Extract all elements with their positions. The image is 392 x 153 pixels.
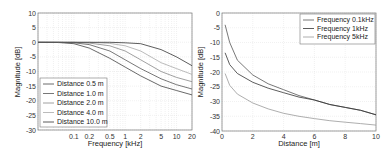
distance-attenuation-chart: 0-5-10-15-20-25-30-35-40 0246810 Distanc… (196, 10, 380, 149)
right-y-tick-labels: 0-5-10-15-20-25-30-35-40 (210, 10, 220, 135)
y-tick-label: -30 (210, 98, 220, 105)
y-tick-label: -10 (210, 39, 220, 46)
y-tick-label: -25 (210, 83, 220, 90)
x-tick-label: 5 (159, 133, 163, 140)
y-tick-label: 10 (28, 10, 36, 17)
y-tick-label: -25 (26, 112, 36, 119)
left-x-axis-label: Frequency [kHz] (88, 139, 143, 148)
series-line (38, 42, 192, 81)
y-tick-label: -10 (26, 68, 36, 75)
y-tick-label: -15 (210, 54, 220, 61)
y-tick-label: -15 (26, 83, 36, 90)
x-tick-label: 0 (220, 133, 224, 140)
right-y-axis-label: Magnitude [dB] (196, 47, 205, 97)
figure: 1050-5-10-15-20-25-30 0.10.20.51251020 F… (0, 0, 392, 153)
series-line (38, 42, 192, 74)
legend-label: Distance 2.0 m (57, 99, 104, 106)
y-tick-label: -5 (214, 24, 220, 31)
x-tick-label: 0.1 (69, 133, 79, 140)
legend-label: Distance 1.0 m (57, 90, 104, 97)
left-y-axis-label: Magnitude [dB] (13, 47, 22, 97)
y-tick-label: -20 (210, 69, 220, 76)
x-tick-label: 8 (343, 133, 347, 140)
legend-label: Distance 0.5 m (57, 80, 104, 87)
y-tick-label: -35 (210, 113, 220, 120)
y-tick-label: -40 (210, 128, 220, 135)
y-tick-label: 0 (32, 39, 36, 46)
series-line (225, 53, 376, 115)
legend-label: Frequency 0.1kHz (317, 16, 374, 24)
legend-label: Frequency 1kHz (317, 25, 368, 33)
x-tick-label: 10 (173, 133, 181, 140)
legend-label: Distance 4.0 m (57, 109, 104, 116)
legend-label: Distance 10.0 m (57, 118, 108, 125)
legend-label: Frequency 5kHz (317, 33, 368, 41)
right-x-axis-label: Distance [m] (278, 139, 320, 148)
right-legend: Frequency 0.1kHzFrequency 1kHzFrequency … (300, 14, 375, 44)
y-tick-label: -30 (26, 127, 36, 134)
y-tick-label: 0 (216, 10, 220, 17)
left-legend: Distance 0.5 mDistance 1.0 mDistance 2.0… (40, 78, 108, 127)
y-tick-label: 5 (32, 24, 36, 31)
x-tick-label: 10 (372, 133, 380, 140)
y-tick-label: -20 (26, 97, 36, 104)
y-tick-label: -5 (30, 53, 36, 60)
x-tick-label: 20 (188, 133, 196, 140)
left-y-tick-labels: 1050-5-10-15-20-25-30 (26, 10, 36, 134)
x-tick-label: 2 (251, 133, 255, 140)
frequency-response-chart: 1050-5-10-15-20-25-30 0.10.20.51251020 F… (13, 10, 196, 149)
series-line (225, 74, 376, 126)
